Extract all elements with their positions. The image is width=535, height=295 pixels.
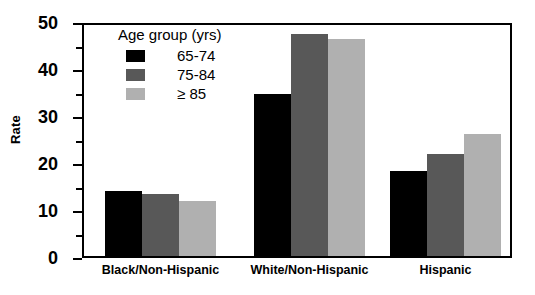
y-axis-major-tick — [73, 258, 82, 260]
x-axis-category-label: White/Non-Hispanic — [250, 261, 368, 279]
bar — [179, 201, 216, 256]
y-axis-tick-label: 40 — [22, 61, 58, 79]
y-axis-major-tick — [73, 211, 82, 213]
y-axis-major-tick — [73, 23, 82, 25]
legend-entry: ≥ 85 — [100, 84, 290, 103]
bar — [464, 134, 501, 256]
bar — [390, 171, 427, 256]
legend-entry-label: ≥ 85 — [177, 85, 206, 102]
y-axis-title-text: Rate — [8, 115, 23, 144]
legend: Age group (yrs) 65-7475-84≥ 85 — [100, 26, 290, 103]
legend-entry-label: 75-84 — [177, 66, 215, 83]
legend-swatch — [126, 69, 145, 81]
legend-swatch — [126, 88, 145, 100]
x-axis-category-labels: Black/Non-HispanicWhite/Non-HispanicHisp… — [84, 261, 510, 283]
y-axis-tick-label: 30 — [22, 108, 58, 126]
bar — [427, 154, 464, 256]
x-axis-category-label: Black/Non-Hispanic — [102, 261, 219, 279]
legend-title: Age group (yrs) — [118, 26, 290, 43]
y-axis-tick-label: 20 — [22, 155, 58, 173]
y-axis-tick-label: 10 — [22, 202, 58, 220]
x-axis-category-label: Hispanic — [419, 261, 471, 279]
bar-chart: Rate 50403020100 Black/Non-HispanicWhite… — [0, 0, 535, 295]
y-axis-tick-label: 0 — [22, 249, 58, 267]
y-axis-tick-label: 50 — [22, 14, 58, 32]
y-axis-tick-labels: 50403020100 — [22, 0, 58, 295]
y-axis-major-tick — [73, 70, 82, 72]
bar — [328, 39, 365, 256]
bar-group — [390, 25, 501, 256]
legend-entries: 65-7475-84≥ 85 — [100, 46, 290, 103]
legend-entry-label: 65-74 — [177, 47, 215, 64]
bar — [142, 194, 179, 256]
y-axis-major-tick — [73, 164, 82, 166]
bar — [254, 94, 291, 256]
legend-entry: 75-84 — [100, 65, 290, 84]
legend-entry: 65-74 — [100, 46, 290, 65]
y-axis-major-tick — [73, 117, 82, 119]
bar — [105, 191, 142, 256]
bar — [291, 34, 328, 256]
legend-swatch — [126, 50, 145, 62]
